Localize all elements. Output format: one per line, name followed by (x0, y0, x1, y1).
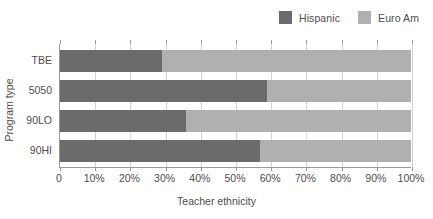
bar-segment-euro-am[interactable] (162, 50, 411, 72)
x-tick-label-50pct: 50% (224, 172, 245, 184)
tick-mark (201, 167, 202, 171)
x-tick-label-20pct: 20% (119, 172, 140, 184)
y-tick-label-90lo: 90LO (26, 114, 52, 126)
bar-row[interactable] (60, 80, 411, 102)
stacked-bar-chart: Hispanic Euro Am Program type TBE505090L… (0, 0, 433, 219)
x-tick-label-40pct: 40% (189, 172, 210, 184)
tick-mark (166, 167, 167, 171)
bar-row[interactable] (60, 140, 411, 162)
y-tick-label-tbe: TBE (32, 54, 52, 66)
tick-mark (236, 167, 237, 171)
bar-series-container (60, 44, 411, 167)
bar-segment-hispanic[interactable] (60, 140, 260, 162)
y-axis-tick-labels: TBE505090LO90HI (0, 44, 52, 168)
bar-segment-euro-am[interactable] (260, 140, 411, 162)
bar-segment-hispanic[interactable] (60, 50, 162, 72)
bar-segment-euro-am[interactable] (186, 110, 411, 132)
bottom-tick-marks (60, 167, 411, 171)
legend-label-hispanic: Hispanic (299, 12, 340, 24)
tick-mark (95, 167, 96, 171)
x-tick-label-70pct: 70% (295, 172, 316, 184)
plot-area (59, 44, 411, 168)
tick-mark (130, 167, 131, 171)
x-tick-label-30pct: 30% (154, 172, 175, 184)
legend-swatch-euro-am (358, 11, 371, 24)
bar-segment-euro-am[interactable] (267, 80, 411, 102)
tick-mark (306, 167, 307, 171)
x-tick-label-100pct: 100% (398, 172, 425, 184)
x-tick-label-90pct: 90% (365, 172, 386, 184)
x-tick-label-60pct: 60% (260, 172, 281, 184)
legend-item-hispanic[interactable]: Hispanic (279, 11, 340, 24)
legend-item-euro-am[interactable]: Euro Am (358, 11, 419, 24)
tick-mark (412, 40, 413, 44)
chart-legend: Hispanic Euro Am (279, 11, 419, 24)
tick-mark (342, 167, 343, 171)
x-tick-label-80pct: 80% (330, 172, 351, 184)
y-tick-label-5050: 5050 (29, 84, 52, 96)
legend-swatch-hispanic (279, 11, 292, 24)
legend-label-euro-am: Euro Am (378, 12, 419, 24)
tick-mark (412, 167, 413, 171)
bar-segment-hispanic[interactable] (60, 80, 267, 102)
bar-segment-hispanic[interactable] (60, 110, 186, 132)
gridline (412, 44, 413, 167)
bar-row[interactable] (60, 50, 411, 72)
tick-mark (271, 167, 272, 171)
bar-row[interactable] (60, 110, 411, 132)
x-axis-title: Teacher ethnicity (0, 195, 433, 207)
tick-mark (377, 167, 378, 171)
y-tick-label-90hi: 90HI (30, 144, 52, 156)
x-tick-label-10pct: 10% (84, 172, 105, 184)
x-tick-label-0: 0 (56, 172, 62, 184)
tick-mark (60, 167, 61, 171)
